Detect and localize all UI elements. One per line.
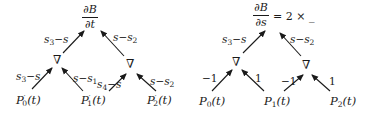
edge-label-p1-to-right-node-r: −1 bbox=[281, 76, 296, 87]
label-op: − bbox=[295, 33, 304, 45]
edge-label-p2-to-right-node-r: 1 bbox=[329, 76, 336, 87]
label-op: − bbox=[118, 31, 127, 43]
edge-label-p1-to-right-node: s4−s bbox=[97, 79, 121, 92]
root-suffix: = 2 × _ bbox=[273, 11, 314, 22]
leaf-name: P bbox=[264, 94, 272, 108]
nabla-node-left: ∇ bbox=[53, 54, 61, 66]
label-op: − bbox=[26, 70, 35, 82]
nabla-node-right: ∇ bbox=[126, 58, 134, 70]
leaf-arg: (t) bbox=[158, 93, 172, 107]
edge-label-left-node-to-root-r: s3−s bbox=[222, 34, 246, 47]
leaf-name: P bbox=[330, 94, 338, 108]
edge-p2-to-right-node-r bbox=[312, 75, 330, 91]
edge-label-p0-to-left-node-r: −1 bbox=[202, 73, 217, 84]
label-var: s bbox=[116, 78, 121, 90]
edge-label-right-node-to-root: s−s2 bbox=[113, 32, 137, 45]
label-op: − bbox=[54, 33, 63, 45]
leaf-p1-prime: P′1(t) bbox=[81, 95, 106, 108]
leaf-arg: (t) bbox=[92, 93, 106, 107]
label-var: s bbox=[241, 33, 246, 45]
leaf-p0-prime: P′0(t) bbox=[16, 95, 41, 108]
label-sub: 2 bbox=[310, 38, 315, 47]
leaf-name: P bbox=[199, 94, 207, 108]
label-op: − bbox=[107, 78, 116, 90]
leaf-p2: P2(t) bbox=[330, 96, 356, 109]
label-op: − bbox=[232, 33, 241, 45]
edge-label-p1-to-left-node: s−s1 bbox=[73, 73, 97, 86]
diagram-canvas: ∂B ∂t s3−s s−s2 ∇ ∇ s3−s s−s1 s4−s s−s2 … bbox=[0, 0, 368, 119]
root-partial-b-partial-s: ∂B ∂s bbox=[253, 2, 269, 28]
leaf-arg: (t) bbox=[343, 94, 357, 108]
edge-label-p2-to-right-node: s−s2 bbox=[150, 76, 174, 89]
leaf-arg: (t) bbox=[277, 94, 291, 108]
label-var: s bbox=[63, 33, 68, 45]
edge-label-p1-to-left-node-r: 1 bbox=[255, 73, 262, 84]
root-numerator: ∂B bbox=[253, 2, 269, 16]
label-var: s bbox=[35, 70, 40, 82]
label-op: − bbox=[78, 72, 87, 84]
label-sub: 2 bbox=[170, 80, 175, 89]
edge-label-left-node-to-root: s3−s bbox=[44, 34, 68, 47]
root-numerator: ∂B bbox=[82, 4, 98, 18]
leaf-arg: (t) bbox=[27, 93, 41, 107]
edge-label-p0-to-left-node: s3−s bbox=[16, 71, 40, 84]
root-denominator: ∂s bbox=[253, 16, 269, 29]
leaf-p2-prime: P′2(t) bbox=[147, 95, 172, 108]
label-sub: 2 bbox=[133, 36, 138, 45]
leaf-p1: P1(t) bbox=[264, 96, 290, 109]
leaf-arg: (t) bbox=[212, 94, 226, 108]
leaf-p0: P0(t) bbox=[199, 96, 225, 109]
label-op: − bbox=[155, 75, 164, 87]
root-denominator: ∂t bbox=[82, 18, 98, 31]
nabla-node-right-r: ∇ bbox=[302, 59, 310, 71]
edge-label-right-node-to-root-r: s−s2 bbox=[290, 34, 314, 47]
nabla-node-left-r: ∇ bbox=[232, 56, 240, 68]
root-partial-b-partial-t: ∂B ∂t bbox=[82, 4, 98, 30]
